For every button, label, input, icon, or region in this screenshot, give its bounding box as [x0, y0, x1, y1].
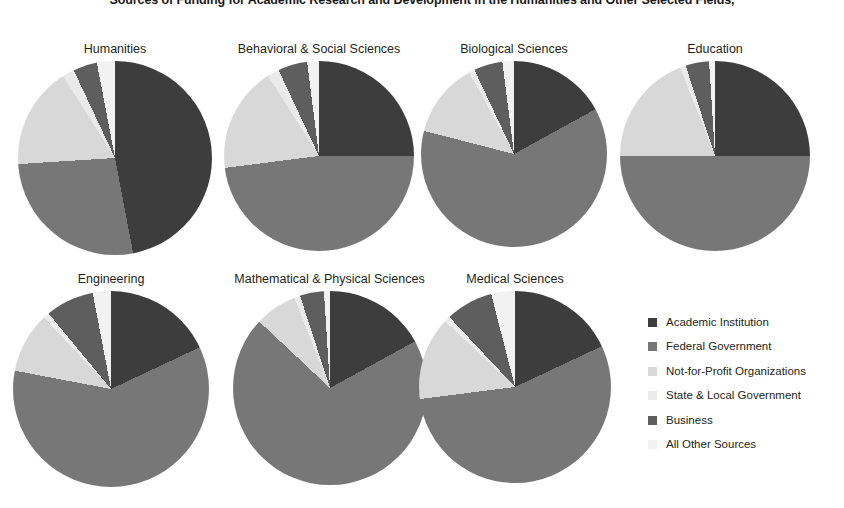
- legend-item-label: State & Local Government: [666, 390, 801, 402]
- legend-swatch-icon: [648, 440, 657, 449]
- pie-panel-title-engineering: Engineering: [78, 272, 145, 286]
- legend-item-label: Not-for-Profit Organizations: [666, 366, 806, 378]
- legend-item-label: Academic Institution: [666, 317, 769, 329]
- legend-swatch-icon: [648, 318, 657, 327]
- pie-chart-biological-sciences: [421, 61, 607, 247]
- legend-item-1: Federal Government: [648, 335, 844, 360]
- pie-wrap-engineering: [13, 291, 209, 487]
- pie-wrap-education: [620, 61, 810, 251]
- legend-item-2: Not-for-Profit Organizations: [648, 359, 844, 384]
- pie-panel-title-behavioral-social-sciences: Behavioral & Social Sciences: [238, 42, 401, 56]
- pie-chart-education: [620, 61, 810, 251]
- pie-chart-engineering: [13, 291, 209, 487]
- legend-item-5: All Other Sources: [648, 433, 844, 458]
- page-title: Sources of Funding for Academic Research…: [0, 0, 844, 7]
- pie-wrap-humanities: [18, 61, 212, 255]
- pie-panel-title-humanities: Humanities: [84, 42, 147, 56]
- pie-chart-mathematical-physical-sciences: [233, 291, 427, 485]
- legend-swatch-icon: [648, 416, 657, 425]
- pie-panel-title-mathematical-physical-sciences: Mathematical & Physical Sciences: [234, 272, 424, 286]
- pie-panel-title-medical-sciences: Medical Sciences: [466, 272, 563, 286]
- legend-item-4: Business: [648, 408, 844, 433]
- chart-figure: Sources of Funding for Academic Research…: [0, 0, 844, 508]
- legend-item-label: Business: [666, 415, 713, 427]
- pie-wrap-behavioral-social-sciences: [224, 61, 414, 251]
- legend-item-label: All Other Sources: [666, 439, 756, 451]
- legend-swatch-icon: [648, 367, 657, 376]
- legend-item-3: State & Local Government: [648, 384, 844, 409]
- pie-chart-behavioral-social-sciences: [224, 61, 414, 251]
- pie-panel-title-education: Education: [687, 42, 743, 56]
- pie-chart-medical-sciences: [419, 291, 611, 483]
- legend-item-label: Federal Government: [666, 341, 771, 353]
- pie-wrap-medical-sciences: [419, 291, 611, 483]
- pie-wrap-mathematical-physical-sciences: [233, 291, 427, 485]
- chart-legend: Academic InstitutionFederal GovernmentNo…: [648, 310, 844, 457]
- legend-swatch-icon: [648, 342, 657, 351]
- legend-item-0: Academic Institution: [648, 310, 844, 335]
- pie-wrap-biological-sciences: [421, 61, 607, 247]
- legend-swatch-icon: [648, 391, 657, 400]
- pie-panel-title-biological-sciences: Biological Sciences: [460, 42, 568, 56]
- pie-chart-humanities: [18, 61, 212, 255]
